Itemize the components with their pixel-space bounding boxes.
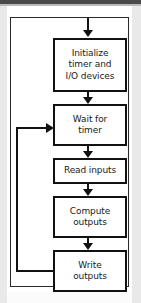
edge-wait-to-read-arrow-icon xyxy=(83,151,93,158)
feedback-loop-arrow-head-icon xyxy=(46,123,54,133)
edge-initialize-to-wait-arrow-icon xyxy=(83,97,93,104)
feedback-loop-bottom-segment xyxy=(16,270,54,272)
node-read-inputs-label: Read inputs xyxy=(55,165,125,177)
node-wait-for-timer-label: Wait for timer xyxy=(55,114,125,137)
feedback-loop-top-segment xyxy=(16,127,49,129)
entry-arrow-head-icon xyxy=(83,30,93,37)
node-initialize-line-3: I/O devices xyxy=(57,71,123,83)
node-compute-outputs[interactable]: Compute outputs xyxy=(53,196,127,238)
node-wait-for-timer[interactable]: Wait for timer xyxy=(53,104,127,146)
page-margin-right xyxy=(132,6,141,303)
node-wait-for-timer-line-1: Wait for xyxy=(57,114,123,126)
diagram-page: Initialize timer and I/O devices Wait fo… xyxy=(0,0,141,303)
page-margin-bottom xyxy=(7,292,132,303)
feedback-loop-vertical-segment xyxy=(16,127,18,272)
page-margin-left xyxy=(0,6,7,303)
node-compute-outputs-label: Compute outputs xyxy=(55,206,125,229)
node-wait-for-timer-line-2: timer xyxy=(57,125,123,137)
node-read-inputs-line-1: Read inputs xyxy=(57,165,123,177)
node-compute-outputs-line-1: Compute xyxy=(57,206,123,218)
edge-compute-to-write-arrow-icon xyxy=(83,243,93,250)
node-write-outputs[interactable]: Write outputs xyxy=(53,250,127,292)
node-write-outputs-line-1: Write xyxy=(57,260,123,272)
edge-read-to-compute-arrow-icon xyxy=(83,189,93,196)
node-initialize-label: Initialize timer and I/O devices xyxy=(55,48,125,83)
node-initialize-line-2: timer and xyxy=(57,59,123,71)
node-write-outputs-label: Write outputs xyxy=(55,260,125,283)
node-initialize[interactable]: Initialize timer and I/O devices xyxy=(53,38,127,92)
page-top-edge-fade xyxy=(0,4,141,6)
node-write-outputs-line-2: outputs xyxy=(57,271,123,283)
node-read-inputs[interactable]: Read inputs xyxy=(53,158,127,184)
node-initialize-line-1: Initialize xyxy=(57,48,123,60)
node-compute-outputs-line-2: outputs xyxy=(57,217,123,229)
